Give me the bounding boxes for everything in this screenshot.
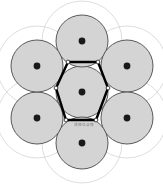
lattice-center-dot-center [79,89,86,96]
lattice-center-dot-lower-right [124,115,131,122]
hexagon-vertex-bottom-right-dot [94,118,98,122]
lattice-center-dot-lower-left [34,115,41,122]
hexagon-vertex-left-dot [54,86,58,90]
hexagon-vertex-top-right-dot [96,60,100,64]
hexagon-vertex-bottom-left-dot [64,118,68,122]
lattice-center-dot-upper-left [34,63,41,70]
packing-diagram-svg: 活性位点阵 [0,0,163,184]
hexagon-vertex-top-left-dot [66,60,70,64]
hexagon-vertex-right-dot [106,86,110,90]
figure-canvas: 活性位点阵 [0,0,163,184]
figure-caption-label: 活性位点阵 [74,122,95,127]
lattice-center-dot-upper-right [124,63,131,70]
lattice-center-dot-bottom [79,140,86,147]
lattice-center-dot-top [79,38,86,45]
